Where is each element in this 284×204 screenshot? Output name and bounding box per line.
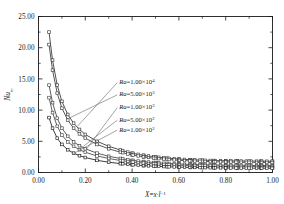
- series-marker: [137, 155, 140, 158]
- series-label: Ra=1.00×104: [118, 78, 155, 86]
- series-marker: [84, 133, 87, 136]
- series-marker: [107, 147, 110, 150]
- series-marker: [61, 100, 64, 103]
- series-annotations: Ra=1.00×104Ra=5.00×103Ra=1.00×103Ra=5.00…: [118, 78, 155, 133]
- x-tick-label: 0.80: [219, 177, 232, 185]
- series-marker: [271, 167, 274, 170]
- series-marker: [214, 161, 217, 164]
- series-marker: [96, 159, 99, 162]
- series-marker: [48, 43, 51, 46]
- series-marker: [173, 159, 176, 162]
- series-marker: [230, 161, 233, 164]
- series-marker: [255, 167, 258, 170]
- series-marker: [127, 153, 130, 156]
- series-marker: [188, 160, 191, 163]
- plot-frame: [39, 17, 273, 173]
- series-label: Ra=1.00×102: [118, 125, 155, 133]
- series-marker: [132, 164, 135, 167]
- data-curves: [49, 32, 272, 168]
- series-marker: [178, 159, 181, 162]
- series-marker: [61, 127, 64, 130]
- series-marker: [271, 161, 274, 164]
- series-marker: [96, 143, 99, 146]
- series-marker: [168, 166, 171, 169]
- series-marker: [178, 166, 181, 169]
- series-marker: [147, 165, 150, 168]
- series-marker: [48, 116, 51, 119]
- series-marker: [188, 166, 191, 169]
- series-marker: [66, 141, 69, 144]
- nusselt-number-line-chart: 0.000.200.400.600.801.00 0.005.0010.0015…: [0, 0, 284, 204]
- series-line: [49, 85, 272, 166]
- series-marker: [194, 160, 197, 163]
- series-marker: [245, 161, 248, 164]
- y-tick-label: 10.00: [18, 107, 35, 115]
- x-axis-title: X=x·l−1: [144, 190, 166, 199]
- series-marker: [194, 166, 197, 169]
- series-marker: [245, 167, 248, 170]
- series-marker: [204, 160, 207, 163]
- data-markers: [48, 31, 274, 170]
- series-marker: [127, 160, 130, 163]
- series-marker: [48, 84, 51, 87]
- series-marker: [199, 166, 202, 169]
- series-marker: [61, 143, 64, 146]
- series-marker: [84, 151, 87, 154]
- series-marker: [84, 137, 87, 140]
- y-axis-title-text: Num: [3, 88, 14, 102]
- series-marker: [142, 156, 145, 159]
- x-tick-label: 0.60: [173, 177, 186, 185]
- axis-ticks: [39, 17, 273, 173]
- series-marker: [66, 119, 69, 122]
- series-marker: [158, 157, 161, 160]
- series-marker: [61, 107, 64, 110]
- series-marker: [132, 154, 135, 157]
- series-marker: [147, 156, 150, 159]
- series-line: [49, 32, 272, 161]
- series-marker: [132, 161, 135, 164]
- series-label: Ra=1.00×103: [118, 103, 155, 111]
- series-marker: [72, 127, 75, 130]
- series-marker: [56, 137, 59, 140]
- x-tick-labels: 0.000.200.400.600.801.00: [32, 177, 279, 185]
- series-marker: [56, 84, 59, 87]
- series-marker: [84, 156, 87, 159]
- series-marker: [72, 141, 75, 144]
- series-marker: [142, 164, 145, 167]
- series-marker: [266, 167, 269, 170]
- series-marker: [121, 152, 124, 155]
- series-marker: [78, 132, 81, 135]
- series-marker: [66, 135, 69, 138]
- series-marker: [219, 167, 222, 170]
- series-marker: [266, 161, 269, 164]
- series-marker: [66, 148, 69, 151]
- x-tick-label: 0.20: [79, 177, 92, 185]
- series-marker: [209, 167, 212, 170]
- series-marker: [78, 128, 81, 131]
- series-marker: [209, 160, 212, 163]
- series-line: [49, 45, 272, 163]
- series-marker: [214, 167, 217, 170]
- series-label: Ra=5.00×103: [118, 90, 155, 98]
- x-tick-label: 0.00: [32, 177, 45, 185]
- x-axis-title-text: X=x·l−1: [144, 190, 166, 199]
- series-marker: [48, 96, 51, 99]
- chart-figure: 0.000.200.400.600.801.00 0.005.0010.0015…: [0, 0, 284, 204]
- series-marker: [96, 152, 99, 155]
- series-marker: [163, 165, 166, 168]
- series-marker: [224, 161, 227, 164]
- series-marker: [51, 111, 54, 114]
- series-marker: [260, 161, 263, 164]
- y-tick-label: 5.00: [22, 138, 35, 146]
- series-marker: [72, 122, 75, 125]
- series-marker: [72, 145, 75, 148]
- y-tick-label: 0.00: [22, 169, 35, 177]
- series-marker: [255, 161, 258, 164]
- leader-line: [86, 108, 117, 149]
- series-marker: [51, 69, 54, 72]
- y-tick-label: 25.00: [18, 13, 35, 21]
- series-marker: [152, 157, 155, 160]
- series-marker: [240, 167, 243, 170]
- series-marker: [260, 167, 263, 170]
- series-label: Ra=5.00×102: [118, 115, 155, 123]
